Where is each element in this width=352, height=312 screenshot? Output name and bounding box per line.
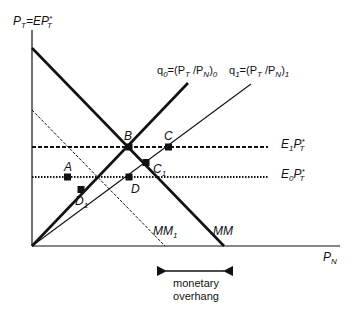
point-d-text: D	[131, 182, 140, 196]
y-axis-label-eq: =EP	[26, 14, 49, 28]
y-axis-label-sub2: T	[47, 21, 52, 30]
point-c-text: C	[164, 129, 173, 143]
point-c1-marker	[143, 159, 150, 166]
q1-label-eq: =(P	[240, 64, 257, 76]
mm-label: MM	[213, 225, 233, 237]
point-d1-label: D1	[75, 195, 88, 210]
point-b-marker	[126, 144, 133, 151]
q0-label-mid: /P	[190, 64, 203, 76]
point-c-label: C	[164, 130, 173, 142]
point-a-text: A	[64, 160, 72, 174]
e0-label-base: E	[281, 167, 289, 181]
q0-label-eq: =(P	[168, 64, 185, 76]
e0-label: E0P*T	[281, 168, 305, 183]
q0-label: q0=(PT /PN)0	[157, 65, 217, 79]
y-axis-label-base: P	[13, 14, 21, 28]
x-axis-label-sub: N	[331, 257, 337, 266]
diagram-canvas	[0, 0, 352, 312]
mm1-label-sub: 1	[173, 231, 177, 240]
mm1-label: MM1	[153, 225, 177, 240]
e1-label-sub2: T	[300, 144, 305, 153]
monetary-overhang-label: monetary overhang	[167, 277, 225, 303]
point-c1-label: C1	[153, 163, 166, 178]
e0-label-sub2: T	[300, 174, 305, 183]
x-axis-label-base: P	[323, 250, 331, 264]
point-d1-text: D	[75, 194, 84, 208]
point-a-label: A	[64, 161, 72, 173]
x-axis-label: PN	[323, 251, 337, 266]
e1-label-base: E	[281, 137, 289, 151]
e1-label: E1P*T	[281, 138, 305, 153]
y-axis-label: PT=EP*T	[13, 15, 52, 30]
point-b-label: B	[124, 130, 132, 142]
mm-label-text: MM	[213, 224, 233, 238]
point-c1-sub: 1	[162, 169, 166, 178]
point-d1-sub: 1	[84, 201, 88, 210]
mm1-label-text: MM	[153, 224, 173, 238]
point-b-text: B	[124, 129, 132, 143]
point-c1-text: C	[153, 162, 162, 176]
point-d1-marker	[78, 186, 85, 193]
point-c-marker	[165, 144, 172, 151]
point-a-marker	[64, 174, 71, 181]
q1-label: q1=(PT /PN)1	[229, 65, 289, 79]
point-d-label: D	[131, 183, 140, 195]
overhang-line2: overhang	[167, 290, 225, 303]
overhang-line1: monetary	[167, 277, 225, 290]
q1-label-close-sub: 1	[285, 70, 289, 79]
point-d-marker	[126, 174, 133, 181]
q1-label-mid: /P	[262, 64, 275, 76]
q0-label-close-sub: 0	[213, 70, 217, 79]
